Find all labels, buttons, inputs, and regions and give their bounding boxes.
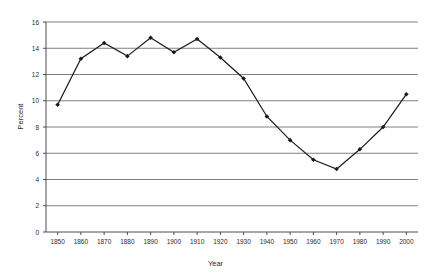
data-markers bbox=[55, 35, 408, 171]
gridlines bbox=[46, 22, 418, 206]
x-tick-label: 1850 bbox=[45, 238, 71, 245]
y-tick-label: 6 bbox=[23, 150, 39, 157]
y-tick-label: 14 bbox=[23, 45, 39, 52]
x-tick-label: 1900 bbox=[161, 238, 187, 245]
x-tick-label: 1980 bbox=[347, 238, 373, 245]
y-tick-label: 4 bbox=[23, 176, 39, 183]
x-tick-label: 1970 bbox=[324, 238, 350, 245]
x-tick-label: 1870 bbox=[91, 238, 117, 245]
y-tick-label: 2 bbox=[23, 202, 39, 209]
x-tick-label: 1940 bbox=[254, 238, 280, 245]
x-tick-label: 2000 bbox=[393, 238, 419, 245]
x-tick-label: 1960 bbox=[300, 238, 326, 245]
x-tick-label: 1890 bbox=[138, 238, 164, 245]
x-tick-label: 1910 bbox=[184, 238, 210, 245]
line-chart: 0246810121416 18501860187018801890190019… bbox=[0, 0, 431, 280]
x-axis-title: Year bbox=[0, 259, 431, 268]
y-tick-label: 0 bbox=[23, 229, 39, 236]
data-line bbox=[58, 38, 407, 169]
y-tick-label: 16 bbox=[23, 19, 39, 26]
y-axis-title: Percent bbox=[16, 87, 25, 147]
x-tick-label: 1880 bbox=[114, 238, 140, 245]
y-tick-label: 8 bbox=[23, 124, 39, 131]
y-tick-label: 12 bbox=[23, 71, 39, 78]
x-tick-label: 1930 bbox=[231, 238, 257, 245]
y-tick-label: 10 bbox=[23, 97, 39, 104]
x-tick-label: 1920 bbox=[207, 238, 233, 245]
x-tick-label: 1860 bbox=[68, 238, 94, 245]
x-tick-label: 1990 bbox=[370, 238, 396, 245]
x-tick-label: 1950 bbox=[277, 238, 303, 245]
data-point-marker bbox=[55, 102, 60, 107]
